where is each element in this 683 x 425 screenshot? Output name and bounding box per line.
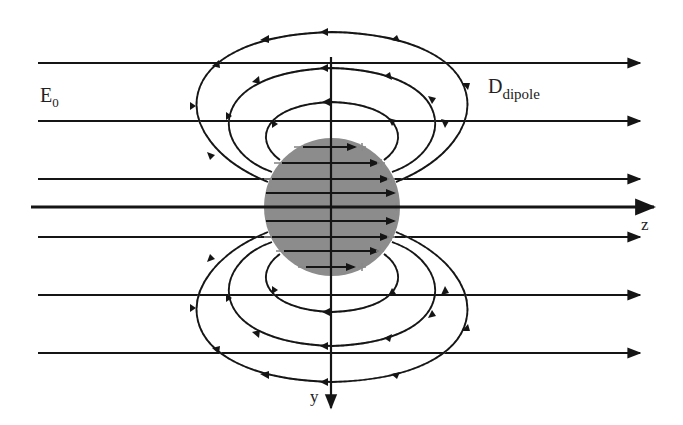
applied-field-label: E0 (40, 84, 59, 110)
dipole-field-diagram: E0 Ddipole z y (0, 0, 683, 425)
z-axis-label: z (641, 215, 649, 234)
dipole-field-label: Ddipole (488, 75, 540, 102)
y-axis-label: y (310, 387, 319, 406)
